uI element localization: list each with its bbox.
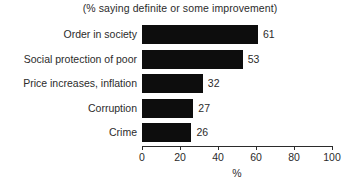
x-axis-tick bbox=[294, 146, 295, 150]
x-axis-tick bbox=[256, 146, 257, 150]
bar bbox=[142, 50, 243, 69]
x-axis-tick-label: 0 bbox=[139, 151, 145, 163]
plot-area: Order in society 61 Social protection of… bbox=[0, 0, 360, 184]
category-label: Crime bbox=[109, 123, 142, 142]
category-label: Corruption bbox=[88, 99, 142, 118]
bar-row: Corruption 27 bbox=[0, 99, 360, 118]
bar-value-label: 26 bbox=[191, 123, 208, 142]
category-label: Order in society bbox=[63, 25, 142, 44]
bar bbox=[142, 123, 191, 142]
x-axis-line bbox=[142, 146, 332, 147]
bar-value-label: 61 bbox=[258, 25, 275, 44]
bar bbox=[142, 74, 203, 93]
bar-row: Price increases, inflation 32 bbox=[0, 74, 360, 93]
bar-row: Crime 26 bbox=[0, 123, 360, 142]
category-label: Social protection of poor bbox=[24, 50, 142, 69]
x-axis-tick-label: 60 bbox=[250, 151, 262, 163]
bar-row: Order in society 61 bbox=[0, 25, 360, 44]
bar-value-label: 53 bbox=[243, 50, 260, 69]
x-axis-tick-label: 40 bbox=[212, 151, 224, 163]
bar-chart: (% saying definite or some improvement) … bbox=[0, 0, 360, 184]
x-axis-tick bbox=[180, 146, 181, 150]
x-axis-tick-label: 100 bbox=[323, 151, 341, 163]
bar-value-label: 32 bbox=[203, 74, 220, 93]
x-axis-tick bbox=[218, 146, 219, 150]
x-axis-tick-label: 80 bbox=[288, 151, 300, 163]
category-label: Price increases, inflation bbox=[23, 74, 142, 93]
bar-row: Social protection of poor 53 bbox=[0, 50, 360, 69]
x-axis-tick-label: 20 bbox=[174, 151, 186, 163]
bar bbox=[142, 99, 193, 118]
x-axis-tick bbox=[142, 146, 143, 150]
bar bbox=[142, 25, 258, 44]
x-axis-tick bbox=[332, 146, 333, 150]
bar-value-label: 27 bbox=[193, 99, 210, 118]
x-axis-title: % bbox=[142, 167, 332, 179]
